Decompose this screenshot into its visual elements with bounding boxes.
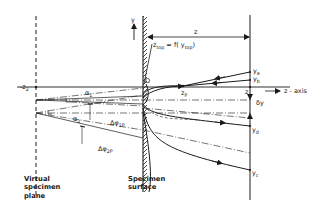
y-axis-label: y [131,17,135,24]
dphi2p-label: Δφ2P [98,146,113,154]
origin-label: O [145,78,150,85]
trajectory-a [143,72,250,95]
specimen-hatch [143,16,147,192]
dphi1p-label: Δφ1P [110,120,125,128]
yb-label: yb [253,76,260,84]
ztop-formula: ztop = f( ytop) [153,42,195,50]
trajectory-c [143,108,250,170]
z-dimension-label: z [194,29,197,36]
yc-label: yc [252,170,259,178]
virtual-plane-caption: Virtual specimen plane [24,175,60,200]
trajectory-d [143,104,250,126]
zp-label: zP [181,90,187,98]
specimen-surface-caption: Specimen surface [128,175,165,192]
delta-y-label: δy [256,100,264,107]
alpha2-label: α2 [73,116,80,124]
z-axis-label: z - axis [284,88,307,95]
z-at-detector-label: z [245,89,248,96]
alpha1-label: α1 [85,90,92,98]
neg-z2-label: -z2 [20,84,29,92]
diagram-canvas: y O z z z - axis -z2 ztop = f( ytop) zP … [0,0,324,209]
yd-label: yd [252,127,259,135]
